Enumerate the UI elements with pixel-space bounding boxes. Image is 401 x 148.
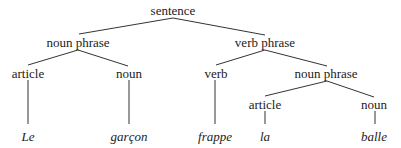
node-noun-phrase-2: noun phrase (294, 66, 357, 81)
edge-np2-noun (327, 81, 374, 97)
node-verb: verb (204, 66, 227, 81)
leaf-la: la (260, 129, 270, 144)
leaf-le: Le (22, 129, 35, 144)
edge-sentence-np1 (79, 18, 173, 34)
edge-np1-article (28, 50, 78, 65)
syntax-tree-diagram: sentence noun phrase verb phrase article… (0, 0, 401, 148)
edge-np1-noun (78, 50, 128, 66)
leaf-garcon: garçon (111, 129, 148, 144)
leaf-balle: balle (361, 129, 387, 144)
edge-np2-article (265, 81, 327, 96)
leaf-frappe: frappe (198, 129, 232, 144)
node-sentence: sentence (151, 3, 196, 18)
node-noun-2: noun (361, 97, 387, 112)
node-noun-phrase-1: noun phrase (46, 35, 109, 50)
node-article-1: article (12, 66, 44, 81)
node-article-2: article (249, 97, 281, 112)
node-noun-1: noun (116, 66, 142, 81)
node-verb-phrase: verb phrase (235, 35, 295, 50)
edge-vp-np2 (265, 50, 327, 66)
edge-vp-verb (216, 50, 265, 65)
edge-sentence-vp (173, 18, 265, 35)
